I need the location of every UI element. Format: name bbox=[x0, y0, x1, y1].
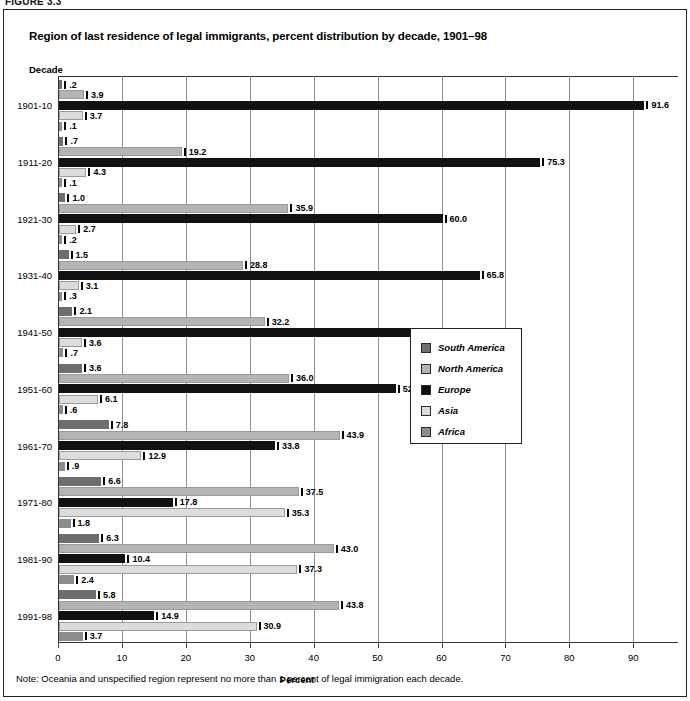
bar-value-label: 36.0 bbox=[291, 373, 314, 383]
legend-swatch-icon bbox=[421, 343, 431, 353]
bar-value-label: 33.8 bbox=[277, 441, 300, 451]
bar-value-label: 91.6 bbox=[646, 100, 669, 110]
bar bbox=[59, 111, 83, 120]
bar bbox=[59, 395, 98, 404]
bar bbox=[59, 441, 275, 450]
bar-value-label: 4.3 bbox=[88, 167, 106, 177]
category-label: 1971-80 bbox=[6, 497, 52, 508]
x-tick bbox=[442, 642, 443, 648]
bar bbox=[59, 137, 63, 146]
x-tick bbox=[378, 642, 379, 648]
bar bbox=[59, 90, 84, 99]
bar-value-label: 1.0 bbox=[67, 193, 85, 203]
page-title: Region of last residence of legal immigr… bbox=[29, 30, 487, 42]
bar-value-label: .1 bbox=[64, 178, 77, 188]
bar-value-label: 35.3 bbox=[287, 508, 310, 518]
bar-value-label: 5.8 bbox=[98, 590, 116, 600]
bar-value-label: 3.6 bbox=[84, 363, 102, 373]
x-tick-label: 70 bbox=[500, 652, 511, 663]
bar bbox=[59, 338, 82, 347]
category-label: 1911-20 bbox=[6, 157, 52, 168]
legend-rows: South AmericaNorth AmericaEuropeAsiaAfri… bbox=[421, 337, 521, 442]
bar-value-label: 6.3 bbox=[101, 533, 119, 543]
x-tick-label: 60 bbox=[436, 652, 447, 663]
bar bbox=[59, 374, 289, 383]
bar bbox=[59, 250, 69, 259]
bar bbox=[59, 193, 65, 202]
bar bbox=[59, 632, 83, 641]
bar-value-label: 32.2 bbox=[267, 317, 290, 327]
bar bbox=[59, 122, 62, 131]
bar-value-label: .7 bbox=[65, 348, 78, 358]
bar bbox=[59, 214, 443, 223]
x-tick-label: 50 bbox=[372, 652, 383, 663]
x-tick-label: 80 bbox=[564, 652, 575, 663]
bar-value-label: 1.5 bbox=[71, 250, 89, 260]
bar bbox=[59, 431, 340, 440]
bar-value-label: 65.8 bbox=[482, 270, 505, 280]
bar bbox=[59, 420, 109, 429]
category-label: 1951-60 bbox=[6, 383, 52, 394]
bar bbox=[59, 147, 182, 156]
bar bbox=[59, 590, 96, 599]
bar-value-label: .1 bbox=[64, 121, 77, 131]
x-tick bbox=[633, 642, 634, 648]
bar bbox=[59, 225, 76, 234]
bar-value-label: 37.3 bbox=[299, 564, 322, 574]
bar bbox=[59, 477, 101, 486]
bar bbox=[59, 554, 125, 563]
legend-item: Africa bbox=[421, 421, 521, 442]
bar bbox=[59, 611, 154, 620]
x-tick bbox=[569, 642, 570, 648]
x-axis-line bbox=[58, 642, 678, 643]
bar bbox=[59, 519, 71, 528]
bar-value-label: 3.6 bbox=[84, 338, 102, 348]
x-tick-label: 90 bbox=[628, 652, 639, 663]
bar bbox=[59, 178, 62, 187]
bar-value-label: 2.4 bbox=[76, 575, 94, 585]
bar-value-label: 6.1 bbox=[100, 394, 118, 404]
chart-note: Note: Oceania and unspecified region rep… bbox=[16, 673, 463, 684]
bar bbox=[59, 575, 74, 584]
legend-label: Asia bbox=[438, 405, 458, 416]
bar-value-label: 3.1 bbox=[81, 281, 99, 291]
bar bbox=[59, 487, 299, 496]
x-tick bbox=[505, 642, 506, 648]
bar-value-label: 43.0 bbox=[336, 544, 359, 554]
legend-item: North America bbox=[421, 358, 521, 379]
legend-swatch-icon bbox=[421, 406, 431, 416]
bar bbox=[59, 292, 62, 301]
bar bbox=[59, 307, 72, 316]
bar bbox=[59, 261, 243, 270]
x-tick-label: 40 bbox=[308, 652, 319, 663]
bar-value-label: 75.3 bbox=[542, 157, 565, 167]
category-label: 1901-10 bbox=[6, 100, 52, 111]
bar bbox=[59, 622, 257, 631]
y-axis-title: Decade bbox=[29, 64, 63, 75]
legend-label: Europe bbox=[438, 384, 471, 395]
category-label: 1961-70 bbox=[6, 440, 52, 451]
legend-item: South America bbox=[421, 337, 521, 358]
bar-value-label: .2 bbox=[64, 235, 77, 245]
bar-value-label: 6.6 bbox=[103, 476, 121, 486]
chart-plot-area: 0102030405060708090 .23.991.63.7.1.719.2… bbox=[58, 76, 678, 643]
bar-value-label: 2.1 bbox=[74, 306, 92, 316]
bar-value-label: .9 bbox=[67, 461, 80, 471]
category-label: 1991-98 bbox=[6, 610, 52, 621]
category-label: 1931-40 bbox=[6, 270, 52, 281]
bar bbox=[59, 80, 62, 89]
figure-number: FIGURE 3.3 bbox=[5, 0, 61, 6]
bar-value-label: 30.9 bbox=[259, 621, 282, 631]
bar bbox=[59, 101, 644, 110]
legend-item: Asia bbox=[421, 400, 521, 421]
category-label: 1921-30 bbox=[6, 213, 52, 224]
bar bbox=[59, 158, 540, 167]
bar bbox=[59, 534, 99, 543]
bar-value-label: 35.9 bbox=[290, 203, 313, 213]
plot-top-border bbox=[58, 76, 678, 77]
bar-value-label: 19.2 bbox=[184, 147, 207, 157]
bar bbox=[59, 601, 339, 610]
bar bbox=[59, 204, 288, 213]
legend-item: Europe bbox=[421, 379, 521, 400]
legend-swatch-icon bbox=[421, 364, 431, 374]
